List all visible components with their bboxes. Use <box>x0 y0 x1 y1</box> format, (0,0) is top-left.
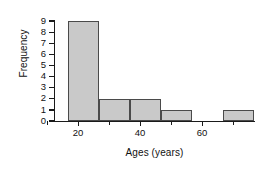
y-axis-line <box>54 20 56 121</box>
y-tick-label: 5 <box>34 60 46 70</box>
y-tick <box>49 109 54 110</box>
histogram-bar <box>68 21 99 121</box>
histogram-chart: 0 1 2 3 4 5 6 7 8 9 20 40 60 Frequency A… <box>0 0 269 169</box>
y-tick <box>49 65 54 66</box>
x-axis-label: Ages (years) <box>54 147 255 158</box>
y-tick <box>49 76 54 77</box>
x-tick-major <box>202 121 203 126</box>
y-tick <box>49 54 54 55</box>
y-tick-label: 9 <box>34 16 46 26</box>
y-tick-label: 7 <box>34 38 46 48</box>
y-tick-label: 4 <box>34 71 46 81</box>
histogram-bar <box>130 99 161 121</box>
x-tick-minor <box>109 121 110 125</box>
histogram-bar <box>99 99 130 121</box>
x-axis-line <box>54 121 255 123</box>
x-tick-minor <box>47 121 48 125</box>
y-tick <box>49 98 54 99</box>
x-tick-minor <box>171 121 172 125</box>
histogram-bar <box>161 110 192 121</box>
y-tick <box>49 43 54 44</box>
x-tick-minor <box>233 121 234 125</box>
y-tick-label: 6 <box>34 49 46 59</box>
y-axis-label: Frequency <box>18 14 29 94</box>
x-tick-label: 20 <box>66 128 90 138</box>
y-tick <box>49 32 54 33</box>
x-tick-label: 40 <box>128 128 152 138</box>
histogram-bar <box>223 110 254 121</box>
y-tick-label: 0 <box>34 116 46 126</box>
y-tick-label: 3 <box>34 82 46 92</box>
y-tick <box>49 87 54 88</box>
y-tick-label: 8 <box>34 27 46 37</box>
y-tick-label: 1 <box>34 105 46 115</box>
y-tick <box>49 20 54 21</box>
y-tick <box>49 120 54 121</box>
x-tick-major <box>140 121 141 126</box>
x-tick-label: 60 <box>190 128 214 138</box>
y-tick-label: 2 <box>34 93 46 103</box>
x-tick-major <box>78 121 79 126</box>
